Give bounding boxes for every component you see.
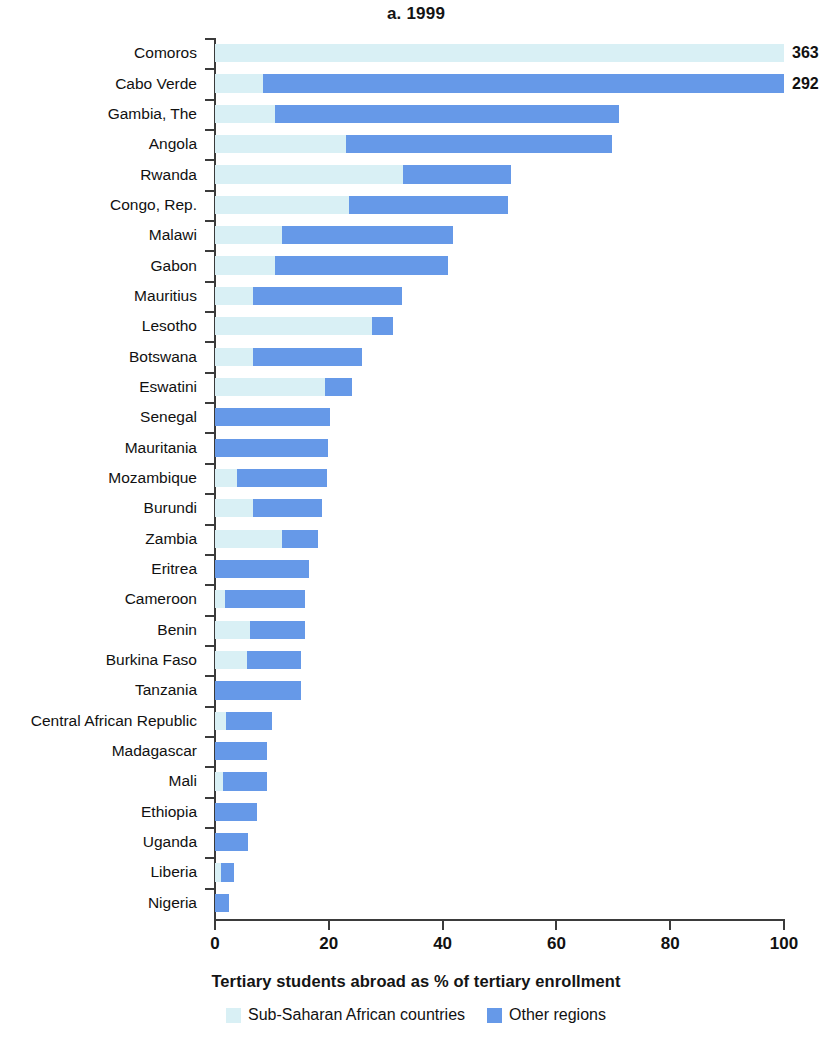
bar-row [215,99,784,129]
stacked-bar [215,348,784,366]
bar-segment-other-regions [215,408,330,426]
bar-row [215,129,784,159]
bar-segment-other-regions [250,621,305,639]
y-axis-tick [205,68,215,70]
y-axis-tick [205,675,215,677]
stacked-bar [215,894,784,912]
stacked-bar [215,317,784,335]
stacked-bar [215,560,784,578]
legend-item: Other regions [487,1006,606,1024]
legend-swatch [226,1008,241,1023]
x-axis-tick-label: 20 [319,934,338,954]
bar-row [215,554,784,584]
y-axis-label: Liberia [150,864,197,880]
chart-container: a. 1999 ComorosCabo VerdeGambia, TheAngo… [0,0,832,1040]
bar-segment-other-regions [253,499,322,517]
stacked-bar [215,378,784,396]
stacked-bar [215,74,784,92]
y-axis-tick [205,888,215,890]
legend-swatch [487,1008,502,1023]
stacked-bar [215,590,784,608]
y-axis-tick [205,797,215,799]
stacked-bar [215,833,784,851]
stacked-bar [215,44,784,62]
y-axis-tick [205,857,215,859]
y-axis-label: Mozambique [108,470,197,486]
y-axis-tick [205,827,215,829]
plot-area [215,38,784,918]
bar-rows [215,38,784,918]
bar-row [215,493,784,523]
bar-segment-other-regions [221,863,234,881]
bar-segment-other-regions [372,317,393,335]
y-axis-label: Burkina Faso [106,652,197,668]
x-axis-tick-label: 60 [547,934,566,954]
y-axis-label: Eswatini [139,379,197,395]
bar-segment-other-regions [215,560,309,578]
bar-segment-other-regions [223,772,267,790]
y-axis-tick [205,432,215,434]
bar-segment-other-regions [325,378,352,396]
y-axis-label: Senegal [140,409,197,425]
x-axis-title: Tertiary students abroad as % of tertiar… [0,972,832,991]
bar-segment-sub-saharan [215,196,349,214]
stacked-bar [215,681,784,699]
stacked-bar [215,499,784,517]
x-axis-tick [783,921,785,930]
bar-segment-sub-saharan [215,287,253,305]
x-axis-tick-label: 40 [433,934,452,954]
legend-label: Sub-Saharan African countries [248,1006,465,1024]
bar-segment-other-regions [237,469,327,487]
bar-segment-sub-saharan [215,317,372,335]
bar-row [215,827,784,857]
bar-segment-other-regions [349,196,508,214]
y-axis-label: Uganda [143,834,197,850]
bar-segment-other-regions [215,894,229,912]
bar-segment-other-regions [225,590,305,608]
y-axis-label: Burundi [144,500,197,516]
y-axis-category-labels: ComorosCabo VerdeGambia, TheAngolaRwanda… [0,38,205,918]
x-axis-tick [328,921,330,930]
y-axis-label: Ethiopia [141,804,197,820]
bar-segment-sub-saharan [215,256,275,274]
bar-row [215,341,784,371]
y-axis-tick [205,493,215,495]
stacked-bar [215,165,784,183]
bar-segment-sub-saharan [215,105,275,123]
y-axis-tick [205,159,215,161]
y-axis-tick [205,766,215,768]
bar-segment-sub-saharan [215,469,237,487]
bar-row [215,311,784,341]
y-axis-label: Nigeria [148,895,197,911]
y-axis-tick [205,38,215,40]
stacked-bar [215,469,784,487]
y-axis-tick [205,463,215,465]
legend-item: Sub-Saharan African countries [226,1006,465,1024]
bar-row [215,766,784,796]
y-axis-label: Gambia, The [108,106,197,122]
chart-title: a. 1999 [0,4,832,24]
stacked-bar [215,256,784,274]
y-axis-label: Mauritius [134,288,197,304]
bar-value-label: 363 [792,45,819,61]
bar-segment-sub-saharan [215,772,223,790]
bar-segment-other-regions [282,530,318,548]
bar-segment-other-regions [253,348,362,366]
bar-row [215,675,784,705]
bar-segment-sub-saharan [215,165,403,183]
bar-segment-other-regions [215,681,301,699]
stacked-bar [215,742,784,760]
stacked-bar [215,226,784,244]
y-axis-label: Tanzania [135,682,197,698]
chart-legend: Sub-Saharan African countriesOther regio… [0,1006,832,1024]
x-axis-tick-label: 0 [210,934,219,954]
y-axis-label: Congo, Rep. [110,197,197,213]
bar-row [215,220,784,250]
y-axis-tick [205,341,215,343]
bar-segment-other-regions [215,803,257,821]
stacked-bar [215,287,784,305]
bar-row [215,281,784,311]
x-axis-tick-label: 100 [770,934,798,954]
y-axis-label: Comoros [134,45,197,61]
y-axis-label: Gabon [150,258,197,274]
